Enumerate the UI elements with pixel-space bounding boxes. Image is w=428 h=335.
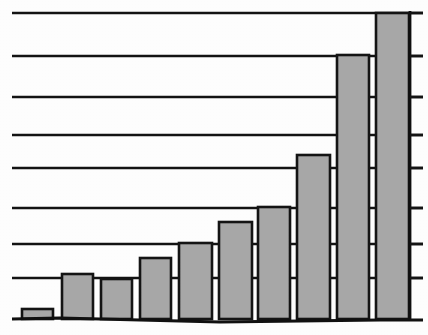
x-axis-baseline <box>12 318 423 322</box>
bar-chart-figure: 1: 0.262: 1.163: 1.044: 1.585: 1.976: 2.… <box>0 0 428 335</box>
plot-area: 1: 0.262: 1.163: 1.044: 1.585: 1.976: 2.… <box>0 0 428 335</box>
axes-group <box>0 0 428 335</box>
